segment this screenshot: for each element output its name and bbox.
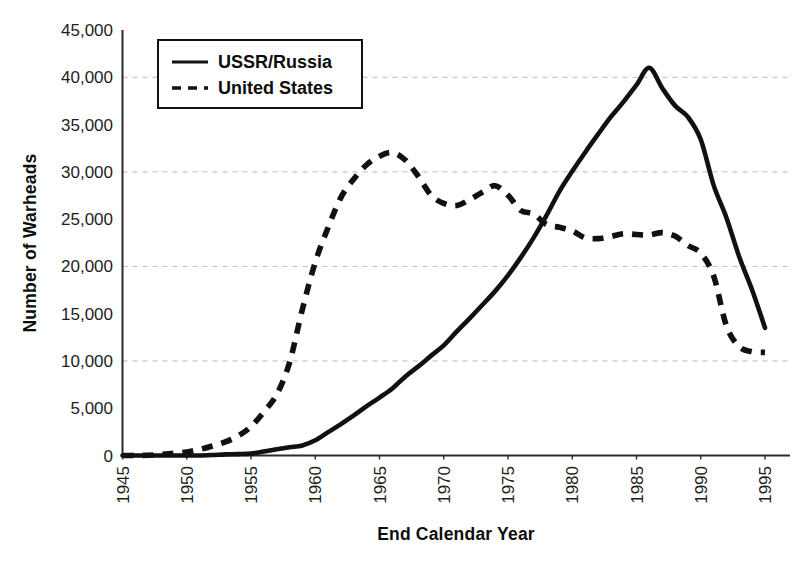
y-axis-title: Number of Warheads	[20, 153, 40, 332]
x-tick-label-1955: 1955	[242, 466, 261, 504]
x-tick-label-1980: 1980	[563, 466, 582, 504]
legend-box	[158, 40, 362, 108]
chart-svg: 05,00010,00015,00020,00025,00030,00035,0…	[0, 0, 807, 568]
y-tick-label-group: 05,00010,00015,00020,00025,00030,00035,0…	[61, 21, 113, 466]
y-tick-label-25000: 25,000	[61, 210, 113, 229]
y-tick-label-5000: 5,000	[70, 399, 113, 418]
x-tick-label-group: 1945195019551960196519701975198019851990…	[114, 466, 776, 504]
legend: USSR/Russia United States	[158, 40, 362, 108]
x-axis-title: End Calendar Year	[377, 524, 535, 544]
y-tick-label-40000: 40,000	[61, 68, 113, 87]
y-tick-label-20000: 20,000	[61, 257, 113, 276]
x-tick-label-1950: 1950	[178, 466, 197, 504]
y-tick-label-10000: 10,000	[61, 352, 113, 371]
series-line-united-states	[123, 152, 766, 455]
y-tick-label-35000: 35,000	[61, 116, 113, 135]
warheads-line-chart: 05,00010,00015,00020,00025,00030,00035,0…	[0, 0, 807, 568]
x-tick-label-1975: 1975	[499, 466, 518, 504]
x-tick-label-1960: 1960	[306, 466, 325, 504]
y-tick-label-30000: 30,000	[61, 163, 113, 182]
y-tick-label-15000: 15,000	[61, 305, 113, 324]
x-tick-label-1965: 1965	[371, 466, 390, 504]
y-tick-label-0: 0	[104, 447, 113, 466]
x-tick-label-1970: 1970	[435, 466, 454, 504]
x-tick-label-1995: 1995	[756, 466, 775, 504]
series-line-ussr-russia	[123, 68, 766, 456]
x-tick-label-1945: 1945	[114, 466, 133, 504]
legend-label-ussr-russia: USSR/Russia	[218, 52, 333, 72]
x-tick-label-1985: 1985	[628, 466, 647, 504]
legend-label-united-states: United States	[218, 78, 333, 98]
data-series-group	[123, 68, 766, 456]
x-tick-label-1990: 1990	[692, 466, 711, 504]
y-tick-label-45000: 45,000	[61, 21, 113, 40]
